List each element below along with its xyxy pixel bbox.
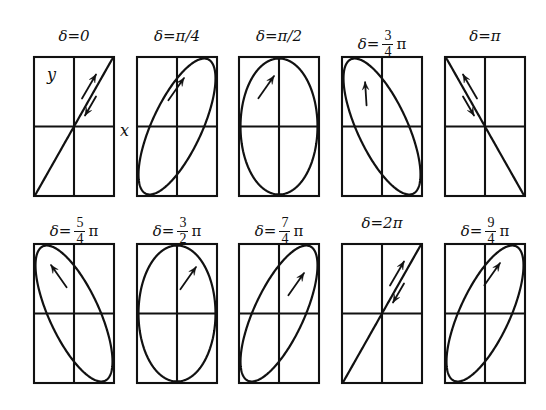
plot-area-3 — [238, 56, 320, 197]
direction-arrow-group — [180, 267, 196, 289]
plot-area-4 — [341, 56, 423, 197]
delta-expression: δ=0 — [58, 29, 89, 44]
plot-area-6 — [33, 243, 115, 384]
direction-arrow-group — [362, 82, 369, 105]
pi-symbol: π — [396, 37, 406, 52]
plot-area-10 — [444, 243, 526, 384]
fraction-numerator: 7 — [279, 216, 290, 230]
delta-expression: δ=π — [469, 29, 500, 44]
fraction-numerator: 3 — [177, 216, 188, 230]
plot-area-1 — [33, 56, 115, 197]
pi-symbol: π — [88, 224, 98, 239]
fraction: 34 — [382, 29, 393, 59]
plot-area-2 — [136, 56, 218, 197]
fraction: 54 — [74, 216, 85, 246]
panel-label-delta-10: δ=94π — [419, 216, 546, 246]
delta-expression: δ=2π — [361, 216, 402, 231]
y-axis-label: y — [47, 67, 56, 83]
delta-expression: δ=π/2 — [256, 29, 302, 44]
fraction: 74 — [279, 216, 290, 246]
direction-arrow-group — [51, 265, 67, 287]
delta-symbol: δ= — [461, 224, 483, 239]
fraction: 32 — [177, 216, 188, 246]
fraction-numerator: 9 — [485, 216, 496, 230]
plot-area-9 — [341, 243, 423, 384]
delta-symbol: δ= — [50, 224, 72, 239]
lissajous-figure-grid: δ=0yxδ=π/4δ=π/2δ=34πδ=πδ=54πδ=32πδ=74πδ=… — [0, 0, 546, 410]
fraction-numerator: 5 — [74, 216, 85, 230]
plot-area-5 — [444, 56, 526, 197]
polarization-panel-5: δ=π — [419, 23, 546, 202]
delta-symbol: δ= — [153, 224, 175, 239]
pi-symbol: π — [191, 224, 201, 239]
delta-expression: δ=π/4 — [154, 29, 200, 44]
direction-arrow-group — [258, 76, 274, 98]
pi-symbol: π — [293, 224, 303, 239]
pi-symbol: π — [499, 224, 509, 239]
direction-arrow-group — [288, 273, 304, 295]
polarization-panel-10: δ=94π — [419, 210, 546, 389]
delta-symbol: δ= — [255, 224, 277, 239]
plot-area-7 — [136, 243, 218, 384]
delta-symbol: δ= — [358, 37, 380, 52]
panel-label-delta-5: δ=π — [419, 29, 546, 44]
fraction: 94 — [485, 216, 496, 246]
direction-arrow-group — [484, 263, 500, 285]
plot-area-8 — [238, 243, 320, 384]
fraction-numerator: 3 — [382, 29, 393, 43]
